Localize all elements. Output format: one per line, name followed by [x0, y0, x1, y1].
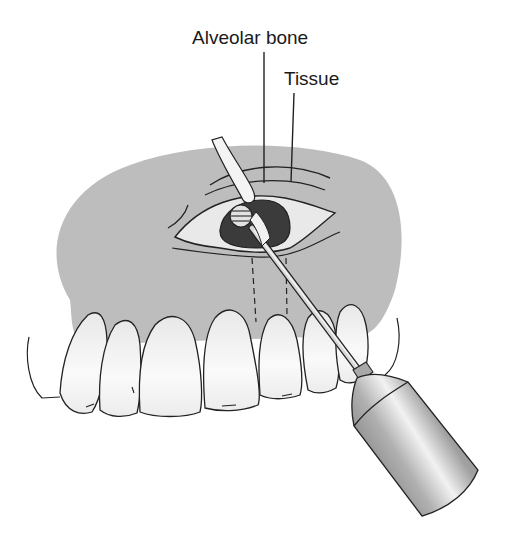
- lip-line-left: [27, 337, 60, 398]
- handpiece: [352, 375, 478, 516]
- dental-illustration: [0, 0, 516, 538]
- lip-line-right: [385, 318, 399, 375]
- bur-head: [230, 205, 252, 227]
